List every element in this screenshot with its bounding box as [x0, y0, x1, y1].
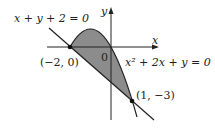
y-axis-label: y — [100, 5, 108, 18]
point-neg2-0 — [68, 45, 73, 50]
point-label-neg2-0: (−2, 0) — [40, 56, 79, 69]
origin-label: 0 — [101, 51, 108, 64]
parabola-equation-label: x² + 2x + y = 0 — [125, 56, 211, 69]
point-1-neg3 — [130, 99, 135, 104]
x-axis-label: x — [152, 34, 159, 47]
shaded-region — [70, 29, 132, 101]
area-between-curves-diagram: y x 0 x + y + 2 = 0 x² + 2x + y = 0 (−2,… — [0, 0, 215, 131]
y-axis-arrow-icon — [109, 7, 114, 14]
point-label-1-neg3: (1, −3) — [136, 89, 175, 102]
line-equation-label: x + y + 2 = 0 — [14, 12, 89, 25]
